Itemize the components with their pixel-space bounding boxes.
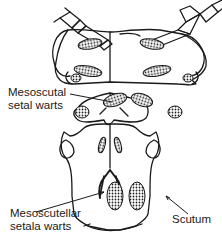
wart-pronotum-upper-left: [77, 37, 102, 51]
scutum-wart-right: [113, 136, 123, 153]
leader-scutum: [166, 196, 188, 214]
label-mesoscutal-setal-warts: Mesoscutal setal warts: [8, 86, 66, 112]
wart-corner-left: [71, 74, 81, 82]
label-mesoscutellar-setala-warts: Mesoscutellar setala warts: [10, 207, 81, 233]
mesoscutal-wart-right: [130, 91, 155, 109]
scutum-wart-left: [97, 136, 107, 153]
mesoscutellar-wart-right: [129, 182, 145, 210]
wart-pronotum-lower-right: [142, 64, 171, 79]
label-line-1: Mesoscutal: [8, 86, 66, 99]
label-line-1: Mesoscutellar: [10, 207, 81, 220]
right-appendage: [152, 0, 222, 46]
label-line-2: setala warts: [10, 220, 81, 233]
label-line-2: setal warts: [8, 99, 66, 112]
wart-corner-right: [183, 74, 193, 82]
wart-pronotum-upper-right: [139, 37, 164, 51]
mesoscutal-wart-outer-right: [168, 106, 182, 118]
mesoscutal-wart-outer-left: [75, 106, 89, 118]
label-scutum: Scutum: [172, 213, 211, 226]
mesoscutellar-wart-left: [107, 182, 123, 210]
